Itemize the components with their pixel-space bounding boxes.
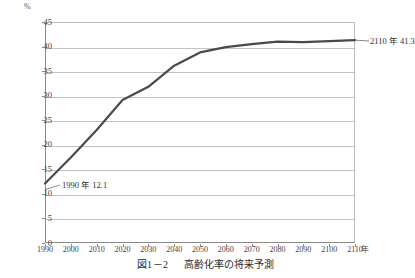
annotation-end-value: 2110 年 41.3	[370, 36, 415, 46]
caption-number: 図1－2	[137, 259, 169, 270]
annotation-start-value: 1990 年 12.1	[62, 180, 107, 190]
annotation-leader-start	[45, 185, 60, 190]
series-line-高齢化率	[45, 40, 355, 183]
annotation-leader-end	[355, 40, 369, 41]
caption-title: 高齢化率の将来予測	[184, 259, 274, 270]
figure-caption: 図1－2 高齢化率の将来予測	[0, 259, 410, 271]
